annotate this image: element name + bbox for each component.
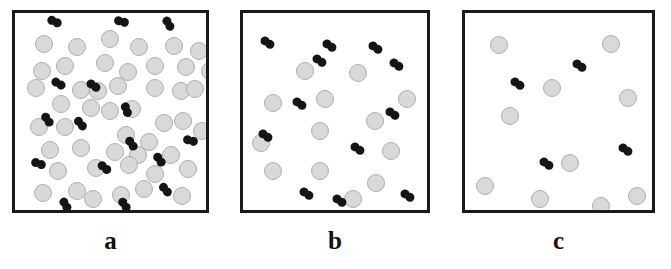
solvent-sphere <box>501 107 519 125</box>
solvent-sphere <box>146 165 164 183</box>
dimer-molecule <box>30 156 47 169</box>
solvent-sphere <box>49 162 67 180</box>
solvent-sphere <box>619 89 637 107</box>
solvent-sphere <box>344 190 362 208</box>
solvent-sphere <box>135 180 153 198</box>
dimer-molecule <box>45 14 62 28</box>
dimer-molecule <box>258 34 275 50</box>
solvent-sphere <box>68 38 86 56</box>
solvent-sphere <box>366 112 384 130</box>
panel-c-box <box>462 10 655 213</box>
solvent-sphere <box>109 77 127 95</box>
solvent-sphere <box>72 139 90 157</box>
dimer-molecule <box>49 75 66 90</box>
solvent-sphere <box>311 162 329 180</box>
dimer-molecule <box>290 95 307 111</box>
solvent-sphere <box>349 64 367 82</box>
solvent-sphere <box>84 190 102 208</box>
dimer-molecule <box>366 39 383 55</box>
solvent-sphere <box>146 57 164 75</box>
solvent-sphere <box>543 79 561 97</box>
dimer-molecule <box>387 56 404 72</box>
solvent-sphere <box>174 112 192 130</box>
solvent-sphere <box>592 197 610 213</box>
solvent-sphere <box>490 36 508 54</box>
solvent-sphere <box>264 162 282 180</box>
dimer-molecule <box>297 185 314 201</box>
dimer-molecule <box>508 75 525 91</box>
solvent-sphere <box>101 102 119 120</box>
solvent-sphere <box>476 177 494 195</box>
dimer-molecule <box>616 141 633 157</box>
dimer-molecule <box>113 15 129 27</box>
panel-a-box <box>12 10 209 213</box>
solvent-sphere <box>367 174 385 192</box>
solvent-sphere <box>41 141 59 159</box>
solvent-sphere <box>201 62 209 80</box>
dimer-molecule <box>72 115 88 132</box>
dimer-molecule <box>570 57 587 73</box>
dimer-molecule <box>348 140 365 156</box>
solvent-sphere <box>34 184 52 202</box>
solvent-sphere <box>52 95 70 113</box>
solvent-sphere <box>56 57 74 75</box>
dimer-molecule <box>116 195 132 212</box>
solvent-sphere <box>531 190 549 208</box>
solvent-sphere <box>173 187 191 205</box>
solvent-sphere <box>179 160 197 178</box>
dimer-molecule <box>157 181 173 198</box>
solvent-sphere <box>264 94 282 112</box>
solvent-sphere <box>382 142 400 160</box>
panel-c-label: c <box>462 228 655 253</box>
panel-b-label: b <box>240 228 430 253</box>
solvent-sphere <box>602 35 620 53</box>
panel-b-box <box>240 10 430 213</box>
solvent-sphere <box>398 90 416 108</box>
panel-a-label: a <box>12 228 209 253</box>
dimer-molecule <box>57 195 72 212</box>
solvent-sphere <box>33 62 51 80</box>
solvent-sphere <box>311 122 329 140</box>
solvent-sphere <box>561 154 579 172</box>
dimer-molecule <box>320 37 337 53</box>
solvent-sphere <box>82 99 100 117</box>
solvent-sphere <box>296 62 314 80</box>
solvent-sphere <box>165 37 183 55</box>
dimer-molecule <box>537 155 554 171</box>
solvent-sphere <box>146 79 164 97</box>
solvent-sphere <box>96 54 114 72</box>
solvent-sphere <box>628 187 646 205</box>
solvent-sphere <box>120 156 138 174</box>
solvent-sphere <box>130 38 148 56</box>
dimer-molecule <box>398 187 415 203</box>
solvent-sphere <box>316 90 334 108</box>
dimer-molecule <box>310 52 327 68</box>
solvent-sphere <box>155 114 173 132</box>
solvent-sphere <box>27 79 45 97</box>
particle-density-figure: abc <box>0 0 671 269</box>
solvent-sphere <box>190 42 208 60</box>
dimer-molecule <box>383 105 400 121</box>
solvent-sphere <box>186 80 204 98</box>
solvent-sphere <box>35 35 53 53</box>
solvent-sphere <box>177 58 195 76</box>
dimer-molecule <box>160 14 175 31</box>
solvent-sphere <box>101 30 119 48</box>
